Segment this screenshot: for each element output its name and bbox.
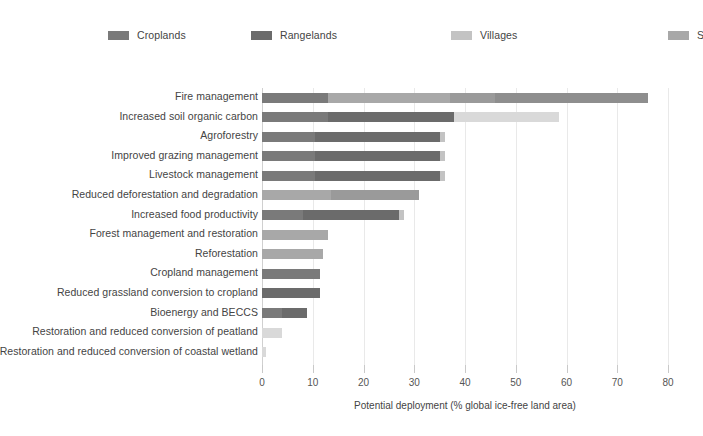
- chart-row: Restoration and reduced conversion of co…: [0, 343, 703, 363]
- chart-row-label: Forest management and restoration: [0, 227, 258, 239]
- chart-row-label: Restoration and reduced conversion of pe…: [0, 325, 258, 337]
- chart-bar-segment: [262, 112, 328, 122]
- chart-row: Bioenergy and BECCS: [0, 304, 703, 324]
- legend-swatch-villages: [451, 31, 472, 40]
- chart-bar-segment: [262, 190, 331, 200]
- chart-bar-segment: [328, 112, 454, 122]
- legend-item-villages: Villages: [451, 26, 668, 44]
- chart-plot-area: Fire managementIncreased soil organic ca…: [0, 88, 703, 388]
- x-tick-10: [313, 365, 314, 373]
- chart-row-label: Increased soil organic carbon: [0, 110, 258, 122]
- legend-swatch-rangelands: [251, 31, 272, 40]
- chart-bar[interactable]: [262, 210, 404, 220]
- chart-bar-segment: [262, 93, 328, 103]
- x-tick-label-40: 40: [445, 377, 485, 388]
- chart-bar-segment: [262, 249, 323, 259]
- chart-row-label: Bioenergy and BECCS: [0, 306, 258, 318]
- chart-bar-segment: [399, 210, 404, 220]
- chart-row-label: Reduced deforestation and degradation: [0, 188, 258, 200]
- chart-bar-segment: [440, 132, 445, 142]
- chart-row: Reduced deforestation and degradation: [0, 186, 703, 206]
- x-tick-label-50: 50: [496, 377, 536, 388]
- chart-bar-segment: [440, 171, 445, 181]
- chart-row: Increased food productivity: [0, 206, 703, 226]
- legend-item-croplands: Croplands: [108, 26, 251, 44]
- chart-bar[interactable]: [262, 347, 266, 357]
- x-tick-label-0: 0: [242, 377, 282, 388]
- chart-row-label: Cropland management: [0, 266, 258, 278]
- chart-bar-segment: [262, 171, 315, 181]
- chart-bar-segment: [303, 210, 399, 220]
- chart-bar-segment: [450, 93, 496, 103]
- chart-bar-segment: [262, 269, 320, 279]
- x-tick-30: [414, 365, 415, 373]
- x-tick-label-70: 70: [597, 377, 637, 388]
- chart-row: Agroforestry: [0, 127, 703, 147]
- chart-row-label: Agroforestry: [0, 129, 258, 141]
- chart-row: Reforestation: [0, 245, 703, 265]
- chart-bar-segment: [262, 288, 320, 298]
- chart-row-label: Restoration and reduced conversion of co…: [0, 345, 258, 357]
- chart-bar-segment: [315, 171, 439, 181]
- chart-bar-segment: [262, 210, 303, 220]
- chart-legend: Croplands Rangelands Villages Semi-natur…: [108, 26, 668, 44]
- x-tick-label-10: 10: [293, 377, 333, 388]
- chart-bar-segment: [495, 93, 647, 103]
- x-tick-50: [516, 365, 517, 373]
- chart-bar[interactable]: [262, 190, 419, 200]
- chart-bar-segment: [262, 308, 282, 318]
- chart-bar[interactable]: [262, 93, 648, 103]
- chart-row-label: Reduced grassland conversion to cropland: [0, 286, 258, 298]
- chart-row: Fire management: [0, 88, 703, 108]
- chart-bar-segment: [440, 151, 445, 161]
- chart-row: Increased soil organic carbon: [0, 108, 703, 128]
- chart-row: Restoration and reduced conversion of pe…: [0, 323, 703, 343]
- x-tick-label-80: 80: [648, 377, 688, 388]
- chart-bar-segment: [328, 93, 450, 103]
- chart-bar[interactable]: [262, 308, 307, 318]
- chart-row: Forest management and restoration: [0, 225, 703, 245]
- chart-bar[interactable]: [262, 112, 559, 122]
- x-tick-40: [465, 365, 466, 373]
- x-tick-60: [567, 365, 568, 373]
- chart-row-label: Fire management: [0, 90, 258, 102]
- chart-bar-segment: [262, 151, 315, 161]
- legend-swatch-croplands: [108, 31, 129, 40]
- chart-bar-segment: [331, 190, 420, 200]
- chart-x-axis-title: Potential deployment (% global ice-free …: [262, 400, 668, 411]
- chart-bar[interactable]: [262, 269, 320, 279]
- x-tick-label-60: 60: [547, 377, 587, 388]
- x-tick-0: [262, 365, 263, 373]
- chart-row-label: Increased food productivity: [0, 208, 258, 220]
- x-tick-20: [364, 365, 365, 373]
- chart-bar[interactable]: [262, 328, 282, 338]
- legend-item-rangelands: Rangelands: [251, 26, 451, 44]
- chart-bar-segment: [262, 230, 328, 240]
- x-tick-80: [668, 365, 669, 373]
- chart-bar[interactable]: [262, 230, 328, 240]
- chart-bar-segment: [315, 132, 439, 142]
- chart-bar[interactable]: [262, 249, 323, 259]
- chart-row-label: Livestock management: [0, 168, 258, 180]
- chart-row-label: Improved grazing management: [0, 149, 258, 161]
- chart-row: Reduced grassland conversion to cropland: [0, 284, 703, 304]
- chart-bar[interactable]: [262, 288, 320, 298]
- chart-bar[interactable]: [262, 132, 445, 142]
- chart-bar-rows: Fire managementIncreased soil organic ca…: [0, 88, 703, 362]
- chart-bar-segment: [262, 328, 282, 338]
- chart-bar-segment: [454, 112, 559, 122]
- chart-row-label: Reforestation: [0, 247, 258, 259]
- legend-label-rangelands: Rangelands: [280, 29, 337, 41]
- x-tick-70: [617, 365, 618, 373]
- legend-swatch-semi-natural-forests: [668, 31, 689, 40]
- chart-bar-segment: [262, 347, 266, 357]
- chart-bar-segment: [262, 132, 315, 142]
- legend-item-semi-natural-forests: Semi-natural forests: [668, 26, 703, 44]
- legend-label-semi-natural-forests: Semi-natural forests: [697, 29, 703, 41]
- chart-bar-segment: [282, 308, 306, 318]
- chart-bar[interactable]: [262, 151, 445, 161]
- chart-row: Improved grazing management: [0, 147, 703, 167]
- legend-label-croplands: Croplands: [137, 29, 186, 41]
- chart-bar[interactable]: [262, 171, 445, 181]
- chart-bar-segment: [315, 151, 439, 161]
